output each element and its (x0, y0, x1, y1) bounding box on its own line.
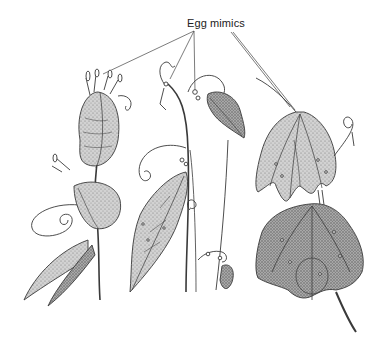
center-vine (130, 62, 245, 292)
right-vine (256, 78, 363, 332)
botanical-illustration: Egg mimics (0, 0, 384, 355)
illustration-svg (0, 0, 384, 355)
egg-mimics-label: Egg mimics (187, 17, 245, 29)
left-vine (24, 69, 131, 306)
